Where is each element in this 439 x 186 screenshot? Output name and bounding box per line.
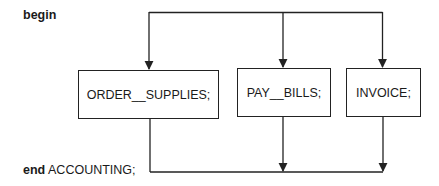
begin-keyword: begin [23,8,56,22]
task-box-pay-bills: PAY__BILLS; [237,68,331,117]
join-connector [150,117,383,172]
task-label: PAY__BILLS; [247,86,322,100]
end-statement: end ACCOUNTING; [23,163,136,177]
task-box-invoice: INVOICE; [346,68,421,117]
fork-connector [149,12,383,69]
end-keyword: end [23,163,45,177]
end-label: ACCOUNTING; [45,163,135,177]
task-box-order-supplies: ORDER__SUPPLIES; [78,70,219,119]
task-label: ORDER__SUPPLIES; [87,88,211,102]
task-label: INVOICE; [356,86,411,100]
